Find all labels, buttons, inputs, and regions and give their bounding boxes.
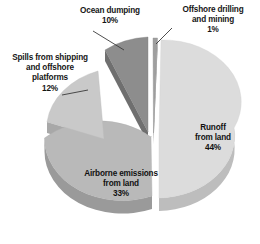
pie-chart-graphic [0,0,260,244]
leader-line-ocean-dumping [93,31,124,50]
pie-label-ocean-dumping: Ocean dumping 10% [58,6,162,26]
pie-label-offshore-drilling: Offshore drilling and mining 1% [170,5,256,36]
slice-top-ocean-dumping [105,37,148,132]
pie-label-spills: Spills from shipping and offshore platfo… [2,53,98,94]
pie-label-airborne: Airborne emissions from land 33% [66,169,176,200]
pie-chart: Ocean dumping 10% Offshore drilling and … [0,0,260,244]
pie-label-runoff: Runoff from land 44% [178,123,248,154]
slice-top-offshore-drilling [153,38,158,133]
